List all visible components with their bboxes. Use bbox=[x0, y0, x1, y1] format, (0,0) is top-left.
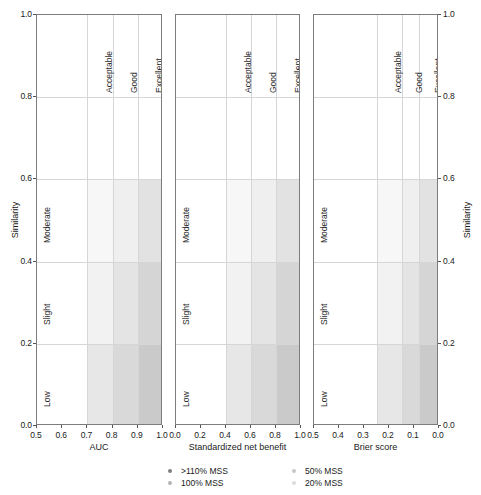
x-ticklabel: 0.6 bbox=[244, 430, 256, 440]
cell-snb-excellent-moderate bbox=[276, 179, 300, 261]
plot-area-auc: AcceptableGoodExcellentLowSlightModerate bbox=[36, 14, 162, 425]
similarity-band-label-moderate: Moderate bbox=[181, 207, 191, 243]
x-ticklabel: 0.2 bbox=[382, 430, 394, 440]
x-ticklabel: 0.7 bbox=[81, 430, 93, 440]
gridline-h bbox=[176, 179, 299, 180]
x-ticklabel: 0.1 bbox=[407, 430, 419, 440]
y-ticklabel-left: 0.2 bbox=[8, 338, 32, 348]
cell-snb-excellent-slight bbox=[276, 262, 300, 344]
category-label-excellent: Excellent bbox=[293, 59, 301, 94]
y-tick-right bbox=[438, 343, 441, 344]
x-axis-title-brier: Brier score bbox=[354, 442, 398, 452]
x-ticklabel: 0.6 bbox=[55, 430, 67, 440]
x-ticklabel: 0.0 bbox=[432, 430, 444, 440]
cell-snb-good-low bbox=[251, 344, 276, 425]
cell-brier-acceptable-moderate bbox=[377, 179, 402, 261]
cell-auc-good-moderate bbox=[113, 179, 138, 261]
cell-auc-excellent-low bbox=[138, 344, 162, 425]
cell-brier-good-slight bbox=[402, 262, 420, 344]
similarity-band-label-low: Low bbox=[181, 391, 191, 407]
y-tick-right bbox=[438, 96, 441, 97]
similarity-band-label-slight: Slight bbox=[42, 303, 52, 324]
category-label-acceptable: Acceptable bbox=[393, 51, 403, 93]
x-ticklabel: 1.0 bbox=[156, 430, 168, 440]
legend-label-2: 100% MSS bbox=[181, 478, 224, 488]
chart-legend: >110% MSS50% MSS100% MSS20% MSS bbox=[0, 462, 481, 495]
y-ticklabel-left: 0.6 bbox=[8, 173, 32, 183]
y-tick-left bbox=[33, 178, 36, 179]
cell-brier-excellent-moderate bbox=[419, 179, 438, 261]
plot-area-snb: AcceptableGoodExcellentLowSlightModerate bbox=[175, 14, 300, 425]
gridline-h bbox=[37, 262, 161, 263]
x-axis-title-snb: Standardized net benefit bbox=[189, 442, 287, 452]
cell-snb-excellent-low bbox=[276, 344, 300, 425]
cell-snb-good-moderate bbox=[251, 179, 276, 261]
gridline-h bbox=[37, 344, 161, 345]
legend-label-0: >110% MSS bbox=[181, 466, 228, 476]
cell-brier-acceptable-slight bbox=[377, 262, 402, 344]
x-tick bbox=[275, 425, 276, 428]
x-tick bbox=[86, 425, 87, 428]
x-tick bbox=[388, 425, 389, 428]
cell-snb-acceptable-low bbox=[226, 344, 251, 425]
x-ticklabel: 0.4 bbox=[219, 430, 231, 440]
cell-snb-good-slight bbox=[251, 262, 276, 344]
x-tick bbox=[313, 425, 314, 428]
legend-label-3: 20% MSS bbox=[305, 478, 343, 488]
x-tick bbox=[300, 425, 301, 428]
cell-auc-acceptable-low bbox=[87, 344, 112, 425]
x-tick bbox=[36, 425, 37, 428]
x-tick bbox=[61, 425, 62, 428]
legend-marker-3 bbox=[292, 481, 296, 485]
cell-snb-acceptable-moderate bbox=[226, 179, 251, 261]
x-tick bbox=[137, 425, 138, 428]
x-ticklabel: 0.5 bbox=[30, 430, 42, 440]
x-tick bbox=[413, 425, 414, 428]
category-label-acceptable: Acceptable bbox=[243, 51, 253, 93]
x-ticklabel: 0.3 bbox=[357, 430, 369, 440]
y-ticklabel-left: 0.8 bbox=[8, 91, 32, 101]
gridline-v bbox=[87, 15, 88, 424]
cell-snb-acceptable-slight bbox=[226, 262, 251, 344]
y-axis-title-left: Similarity bbox=[10, 201, 20, 238]
gridline-v bbox=[377, 15, 378, 424]
y-ticklabel-left: 1.0 bbox=[8, 9, 32, 19]
legend-label-1: 50% MSS bbox=[305, 466, 343, 476]
x-ticklabel: 0.5 bbox=[307, 430, 319, 440]
plot-area-brier: AcceptableGoodExcellentLowSlightModerate bbox=[313, 14, 438, 425]
category-label-acceptable: Acceptable bbox=[104, 51, 114, 93]
y-tick-left bbox=[33, 261, 36, 262]
cell-auc-excellent-moderate bbox=[138, 179, 162, 261]
x-ticklabel: 0.4 bbox=[332, 430, 344, 440]
x-tick bbox=[338, 425, 339, 428]
similarity-band-label-low: Low bbox=[319, 391, 329, 407]
legend-marker-1 bbox=[292, 469, 296, 473]
x-tick bbox=[200, 425, 201, 428]
x-ticklabel: 0.0 bbox=[169, 430, 181, 440]
gridline-h bbox=[176, 344, 299, 345]
gridline-h bbox=[176, 97, 299, 98]
cell-auc-excellent-slight bbox=[138, 262, 162, 344]
x-ticklabel: 0.9 bbox=[131, 430, 143, 440]
y-tick-left bbox=[33, 425, 36, 426]
y-tick-left bbox=[33, 14, 36, 15]
cell-auc-acceptable-moderate bbox=[87, 179, 112, 261]
y-axis-title-right: Similarity bbox=[462, 201, 472, 238]
y-ticklabel-left: 0.0 bbox=[8, 420, 32, 430]
x-ticklabel: 0.2 bbox=[194, 430, 206, 440]
x-axis-title-auc: AUC bbox=[89, 442, 108, 452]
y-tick-right bbox=[438, 178, 441, 179]
cell-brier-excellent-low bbox=[419, 344, 438, 425]
y-ticklabel-right: 1.0 bbox=[443, 9, 455, 19]
y-tick-right bbox=[438, 14, 441, 15]
x-tick bbox=[363, 425, 364, 428]
category-label-good: Good bbox=[268, 72, 278, 93]
figure-root: AcceptableGoodExcellentLowSlightModerate… bbox=[0, 0, 481, 495]
cell-auc-good-slight bbox=[113, 262, 138, 344]
x-tick bbox=[175, 425, 176, 428]
y-ticklabel-right: 0.8 bbox=[443, 91, 455, 101]
gridline-h bbox=[176, 262, 299, 263]
gridline-h bbox=[37, 179, 161, 180]
x-ticklabel: 1.0 bbox=[294, 430, 306, 440]
cell-brier-good-low bbox=[402, 344, 420, 425]
